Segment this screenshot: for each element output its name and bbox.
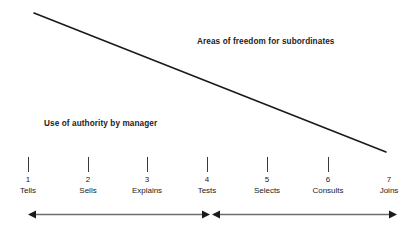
- authority-freedom-boundary-line: [34, 13, 386, 152]
- scale-label-5: Selects: [232, 185, 302, 196]
- tick-mark-2: [88, 157, 89, 172]
- use-of-authority-label: Use of authority by manager: [44, 119, 157, 128]
- leadership-continuum-diagram: Areas of freedom for subordinates Use of…: [0, 0, 418, 236]
- scale-number-5: 5: [232, 174, 302, 185]
- tick-mark-3: [147, 157, 148, 172]
- right-range-arrow: [212, 211, 397, 219]
- tick-mark-4: [207, 157, 208, 172]
- tick-mark-5: [267, 157, 268, 172]
- scale-label-6: Consults: [293, 185, 363, 196]
- scale-point-6[interactable]: 6 Consults: [293, 157, 363, 196]
- areas-of-freedom-label: Areas of freedom for subordinates: [197, 37, 335, 46]
- diagram-graphics: [0, 0, 418, 236]
- scale-point-7[interactable]: 7 Joins: [354, 157, 418, 196]
- tick-mark-1: [28, 157, 29, 172]
- scale-label-7: Joins: [354, 185, 418, 196]
- left-range-arrow: [28, 211, 210, 219]
- scale-point-5[interactable]: 5 Selects: [232, 157, 302, 196]
- scale-number-7: 7: [354, 174, 418, 185]
- tick-mark-6: [328, 157, 329, 172]
- scale-number-6: 6: [293, 174, 363, 185]
